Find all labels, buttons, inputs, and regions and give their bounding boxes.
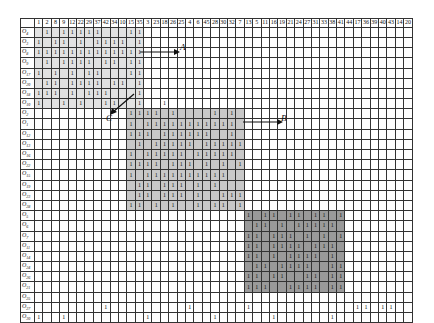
matrix-cell: [303, 78, 311, 88]
matrix-cell: [51, 190, 59, 200]
matrix-cell: [269, 37, 277, 47]
matrix-cell: [85, 282, 93, 292]
column-header: 40: [379, 19, 387, 28]
matrix-cell: [35, 109, 43, 119]
matrix-row: O25: [21, 292, 413, 302]
matrix-cell: [395, 292, 403, 302]
matrix-cell: [93, 170, 101, 180]
matrix-cell: [269, 139, 277, 149]
matrix-cell: [387, 37, 395, 47]
matrix-cell: [43, 139, 51, 149]
matrix-cell: [160, 231, 168, 241]
matrix-cell: 1: [127, 27, 135, 37]
matrix-cell: [320, 129, 328, 139]
matrix-cell: [387, 68, 395, 78]
matrix-cell: [404, 190, 412, 200]
matrix-cell: [85, 221, 93, 231]
row-label: O2: [21, 109, 35, 119]
matrix-cell: 1: [93, 78, 101, 88]
matrix-cell: 1: [118, 48, 126, 58]
matrix-cell: [219, 241, 227, 251]
matrix-cell: [144, 292, 152, 302]
matrix-cell: [152, 262, 160, 272]
matrix-cell: [328, 48, 336, 58]
matrix-cell: [211, 302, 219, 312]
matrix-cell: 1: [253, 221, 261, 231]
matrix-cell: [379, 27, 387, 37]
matrix-cell: [93, 139, 101, 149]
matrix-cell: [227, 27, 235, 37]
matrix-cell: [370, 129, 378, 139]
matrix-cell: [127, 78, 135, 88]
matrix-cell: [362, 231, 370, 241]
column-header: 34: [110, 19, 118, 28]
matrix-cell: [144, 282, 152, 292]
matrix-cell: [253, 292, 261, 302]
matrix-cell: [110, 139, 118, 149]
matrix-cell: [93, 150, 101, 160]
matrix-cell: [102, 170, 110, 180]
matrix-cell: 1: [253, 272, 261, 282]
matrix-cell: [76, 241, 84, 251]
matrix-cell: [43, 241, 51, 251]
matrix-cell: 1: [194, 180, 202, 190]
row-label: O17: [21, 68, 35, 78]
column-header: 27: [303, 19, 311, 28]
matrix-cell: [194, 68, 202, 78]
matrix-cell: [160, 292, 168, 302]
matrix-cell: [362, 241, 370, 251]
matrix-cell: [118, 160, 126, 170]
matrix-cell: 1: [35, 88, 43, 98]
matrix-cell: [261, 139, 269, 149]
matrix-cell: 1: [152, 109, 160, 119]
matrix-cell: [404, 48, 412, 58]
matrix-cell: [102, 262, 110, 272]
matrix-cell: [68, 241, 76, 251]
matrix-cell: [286, 221, 294, 231]
matrix-cell: [337, 78, 345, 88]
matrix-cell: 1: [127, 48, 135, 58]
matrix-cell: [295, 302, 303, 312]
matrix-cell: [328, 292, 336, 302]
matrix-cell: [169, 68, 177, 78]
matrix-cell: 1: [253, 262, 261, 272]
matrix-cell: 1: [295, 221, 303, 231]
matrix-cell: [186, 313, 194, 323]
matrix-cell: [286, 313, 294, 323]
matrix-cell: [370, 150, 378, 160]
matrix-cell: [144, 302, 152, 312]
matrix-cell: 1: [286, 231, 294, 241]
matrix-cell: [236, 180, 244, 190]
matrix-cell: 1: [43, 58, 51, 68]
matrix-cell: [202, 292, 210, 302]
matrix-cell: [278, 27, 286, 37]
arrow-a-icon: [140, 47, 180, 57]
matrix-cell: [144, 78, 152, 88]
matrix-cell: [169, 282, 177, 292]
matrix-cell: [261, 180, 269, 190]
matrix-cell: [362, 221, 370, 231]
matrix-cell: [194, 27, 202, 37]
matrix-cell: [362, 48, 370, 58]
matrix-cell: [379, 109, 387, 119]
row-label: O11: [21, 241, 35, 251]
matrix-cell: [395, 190, 403, 200]
matrix-cell: [328, 37, 336, 47]
matrix-cell: [194, 231, 202, 241]
matrix-cell: 1: [337, 211, 345, 221]
matrix-cell: [194, 272, 202, 282]
matrix-cell: 1: [219, 200, 227, 210]
matrix-cell: [51, 150, 59, 160]
matrix-cell: [395, 221, 403, 231]
matrix-cell: 1: [211, 119, 219, 129]
matrix-cell: [395, 27, 403, 37]
matrix-cell: [43, 211, 51, 221]
matrix-cell: [35, 221, 43, 231]
matrix-cell: 1: [278, 241, 286, 251]
matrix-cell: [328, 27, 336, 37]
matrix-cell: [35, 190, 43, 200]
matrix-cell: [370, 68, 378, 78]
matrix-cell: [320, 190, 328, 200]
matrix-cell: [102, 272, 110, 282]
matrix-cell: [345, 109, 353, 119]
